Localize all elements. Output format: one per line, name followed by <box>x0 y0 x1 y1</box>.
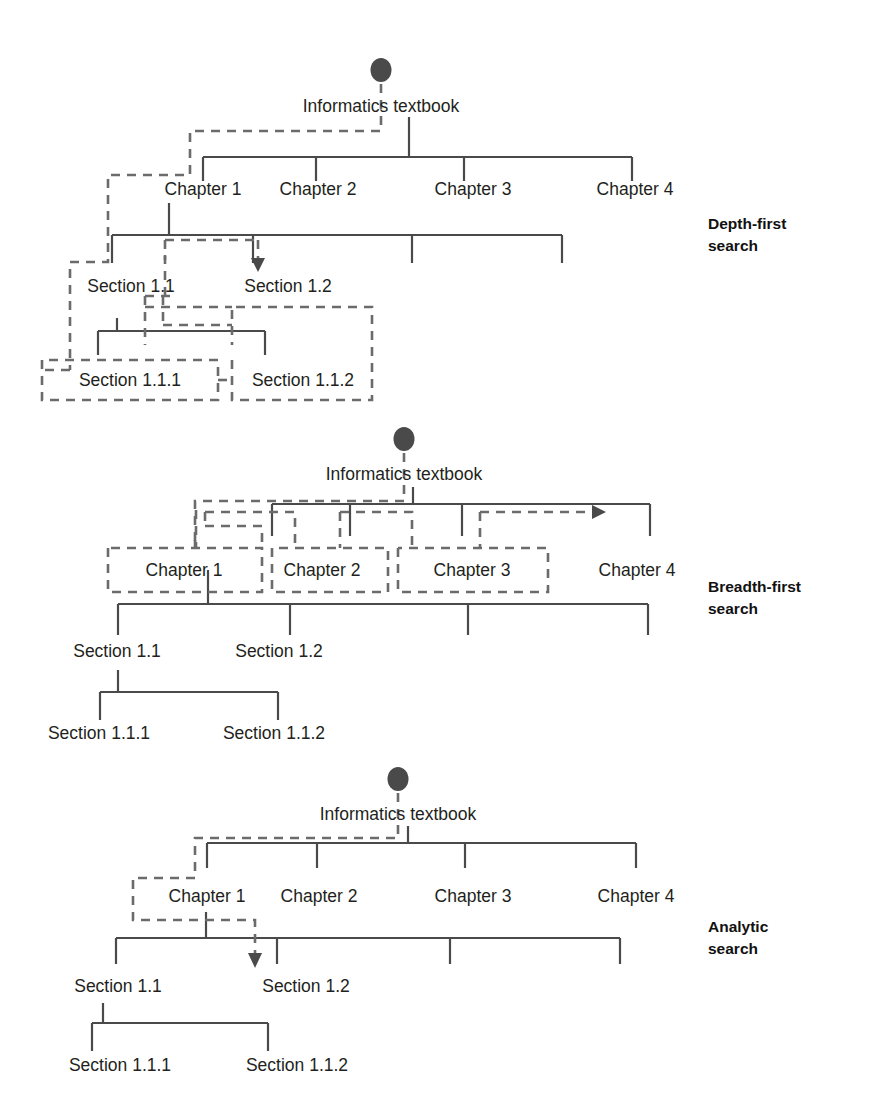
label-section-1-1-1-d3: Section 1.1.1 <box>69 1055 171 1075</box>
dfs-arrowhead-icon <box>251 258 265 272</box>
label-section-1-1-2-d2: Section 1.1.2 <box>223 723 325 743</box>
diagram-depth-first: Informatics textbook Chapter 1 Chapter 2… <box>42 58 786 400</box>
label-section-1-2-d3: Section 1.2 <box>262 976 350 996</box>
label-chapter-4-3: Chapter 4 <box>598 886 675 906</box>
diagram-analytic: Informatics textbook Chapter 1 Chapter 2… <box>69 767 769 1075</box>
label-section-1-1-2: Section 1.1.2 <box>252 370 354 390</box>
side-label-depth-first-line1: Depth-first <box>708 215 786 232</box>
label-chapter-3-3: Chapter 3 <box>435 886 512 906</box>
label-root: Informatics textbook <box>303 96 460 116</box>
side-label-analytic-line1: Analytic <box>708 918 769 935</box>
label-chapter-3: Chapter 3 <box>435 179 512 199</box>
label-section-1-1-1-d2: Section 1.1.1 <box>48 723 150 743</box>
label-chapter-2-2: Chapter 2 <box>284 560 361 580</box>
root-node-dot <box>371 58 392 82</box>
label-section-1-1-1: Section 1.1.1 <box>79 370 181 390</box>
label-root-3: Informatics textbook <box>320 804 477 824</box>
diagram-breadth-first: Informatics textbook Chapter 1 Chapter 2… <box>48 427 801 743</box>
label-chapter-2-3: Chapter 2 <box>281 886 358 906</box>
label-chapter-1: Chapter 1 <box>165 179 242 199</box>
bfs-link-ch1-ch2-a <box>205 526 262 548</box>
label-root-2: Informatics textbook <box>326 464 483 484</box>
label-chapter-4: Chapter 4 <box>597 179 674 199</box>
diagram-svg: Informatics textbook Chapter 1 Chapter 2… <box>0 0 872 1111</box>
label-chapter-2: Chapter 2 <box>280 179 357 199</box>
label-section-1-1-2-d3: Section 1.1.2 <box>246 1055 348 1075</box>
root-node-dot-3 <box>388 767 409 791</box>
side-label-breadth-first-line2: search <box>708 600 758 617</box>
label-section-1-1-d3: Section 1.1 <box>74 976 162 996</box>
label-chapter-4-2: Chapter 4 <box>599 560 676 580</box>
root-node-dot-2 <box>394 427 415 451</box>
label-section-1-2: Section 1.2 <box>244 276 332 296</box>
bfs-arrowhead-icon <box>592 505 606 519</box>
side-label-depth-first-line2: search <box>708 237 758 254</box>
label-section-1-1: Section 1.1 <box>87 276 175 296</box>
figure-canvas: Informatics textbook Chapter 1 Chapter 2… <box>0 0 872 1111</box>
label-section-1-2-d2: Section 1.2 <box>235 641 323 661</box>
side-label-breadth-first-line1: Breadth-first <box>708 578 801 595</box>
label-chapter-1-2: Chapter 1 <box>146 560 223 580</box>
side-label-analytic-line2: search <box>708 940 758 957</box>
label-chapter-1-3: Chapter 1 <box>169 886 246 906</box>
label-chapter-3-2: Chapter 3 <box>434 560 511 580</box>
label-section-1-1-d2: Section 1.1 <box>73 641 161 661</box>
analytic-arrowhead-icon <box>248 953 262 968</box>
bfs-link-ch1-ch2-c <box>205 512 295 548</box>
